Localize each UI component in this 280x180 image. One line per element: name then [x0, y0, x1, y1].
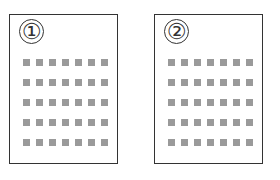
number-badge-1: ① — [19, 19, 44, 44]
grid-square — [246, 119, 253, 126]
grid-square — [181, 139, 188, 146]
grid-square — [62, 99, 69, 106]
grid-square — [233, 79, 240, 86]
grid-square — [75, 139, 82, 146]
grid-square — [207, 79, 214, 86]
grid-square — [36, 99, 43, 106]
grid-square — [49, 59, 56, 66]
grid-square — [49, 79, 56, 86]
grid-square — [88, 139, 95, 146]
grid-square — [207, 119, 214, 126]
grid-square — [62, 139, 69, 146]
grid-square — [49, 99, 56, 106]
grid-square — [36, 79, 43, 86]
grid-square — [36, 59, 43, 66]
grid-square — [101, 119, 108, 126]
grid-square — [23, 119, 30, 126]
grid-square — [88, 79, 95, 86]
grid-square — [62, 119, 69, 126]
grid-square — [181, 79, 188, 86]
grid-square — [23, 99, 30, 106]
grid-square — [75, 59, 82, 66]
grid-square — [168, 99, 175, 106]
grid-square — [246, 139, 253, 146]
grid-square — [23, 79, 30, 86]
grid-square — [168, 79, 175, 86]
grid-square — [49, 139, 56, 146]
grid-square — [233, 119, 240, 126]
grid-square — [88, 59, 95, 66]
grid-square — [246, 59, 253, 66]
grid-square — [194, 119, 201, 126]
grid-square — [233, 59, 240, 66]
grid-square — [101, 59, 108, 66]
grid-square — [75, 79, 82, 86]
grid-square — [101, 139, 108, 146]
grid-square — [49, 119, 56, 126]
grid-square — [168, 119, 175, 126]
grid-square — [194, 99, 201, 106]
grid-square — [62, 59, 69, 66]
page-1: ① — [9, 14, 118, 164]
grid-square — [207, 139, 214, 146]
square-grid-1 — [23, 59, 108, 146]
grid-square — [220, 59, 227, 66]
grid-square — [207, 99, 214, 106]
grid-square — [101, 99, 108, 106]
grid-square — [101, 79, 108, 86]
grid-square — [194, 59, 201, 66]
grid-square — [233, 139, 240, 146]
grid-square — [168, 59, 175, 66]
grid-square — [207, 59, 214, 66]
grid-square — [220, 99, 227, 106]
grid-square — [194, 79, 201, 86]
grid-square — [181, 59, 188, 66]
grid-square — [88, 99, 95, 106]
grid-square — [194, 139, 201, 146]
grid-square — [220, 119, 227, 126]
grid-square — [220, 139, 227, 146]
grid-square — [75, 99, 82, 106]
number-badge-2: ② — [164, 19, 189, 44]
grid-square — [168, 139, 175, 146]
grid-square — [246, 79, 253, 86]
grid-square — [220, 79, 227, 86]
grid-square — [36, 139, 43, 146]
grid-square — [181, 119, 188, 126]
grid-square — [75, 119, 82, 126]
grid-square — [246, 99, 253, 106]
grid-square — [23, 59, 30, 66]
grid-square — [62, 79, 69, 86]
page-2: ② — [154, 14, 263, 164]
square-grid-2 — [168, 59, 253, 146]
grid-square — [181, 99, 188, 106]
grid-square — [233, 99, 240, 106]
grid-square — [23, 139, 30, 146]
grid-square — [36, 119, 43, 126]
grid-square — [88, 119, 95, 126]
